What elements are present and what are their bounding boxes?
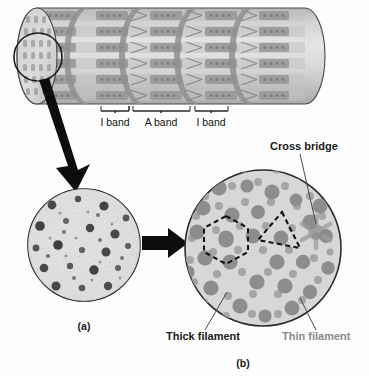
band-brackets bbox=[101, 106, 228, 113]
micrograph-circle-a bbox=[28, 189, 140, 301]
label-thick-filament: Thick filament bbox=[166, 330, 240, 342]
label-cross-bridge: Cross bridge bbox=[270, 140, 338, 152]
arrow-a-to-b bbox=[142, 228, 188, 258]
label-a-band: A band bbox=[145, 116, 178, 128]
label-thin-filament: Thin filament bbox=[282, 330, 351, 342]
muscle-fiber-cylinder bbox=[14, 8, 325, 104]
label-i-band-left: I band bbox=[100, 116, 129, 128]
muscle-myofibril-figure: I band A band I band bbox=[0, 0, 369, 376]
label-i-band-right: I band bbox=[196, 116, 225, 128]
caption-b: (b) bbox=[236, 357, 249, 369]
cross-section-circle-b bbox=[181, 167, 341, 326]
caption-a: (a) bbox=[78, 320, 91, 332]
